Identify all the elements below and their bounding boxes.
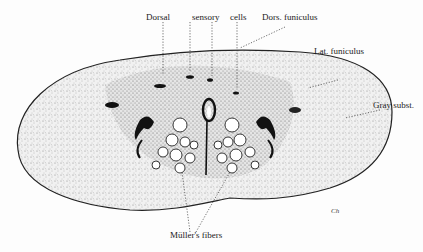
label-dors-funiculus: Dors. funiculus [262, 12, 318, 22]
figure-canvas: Dorsal sensory cells Dors. funiculus Lat… [0, 0, 423, 252]
label-lat-funiculus: Lat. funiculus [314, 46, 364, 56]
label-gray-subst: Gray subst. [373, 100, 414, 110]
label-dorsal: Dorsal [146, 12, 170, 22]
artist-signature: Ch [331, 207, 339, 215]
label-cells: cells [230, 12, 247, 22]
label-muller-fibers: Müller's fibers [170, 230, 222, 240]
spinal-cord-section-illustration [0, 0, 423, 252]
label-sensory: sensory [192, 12, 220, 22]
